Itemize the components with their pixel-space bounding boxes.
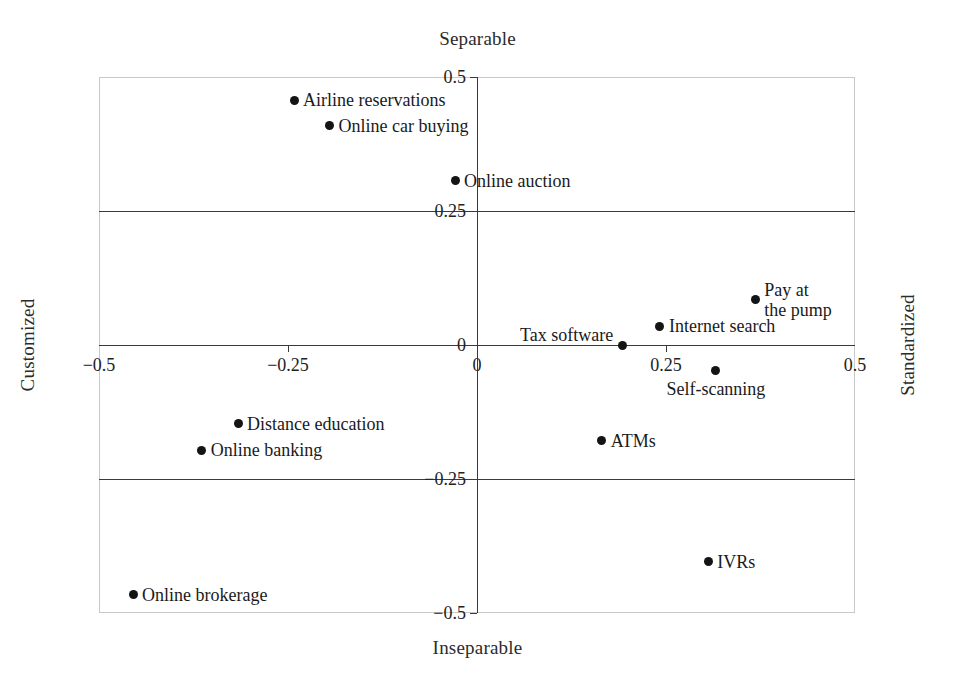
data-point [618, 341, 627, 350]
data-point [197, 446, 206, 455]
data-point-label: Online brokerage [142, 585, 267, 605]
data-point-label: Online auction [464, 171, 570, 191]
y-tick [470, 345, 477, 346]
data-point-label: Online car buying [339, 116, 469, 136]
scatter-plot: Separable Inseparable Customized Standar… [0, 0, 955, 691]
x-tick-label: −0.25 [267, 355, 309, 376]
y-tick [470, 211, 477, 212]
data-point-label: Airline reservations [303, 90, 445, 110]
y-tick-label: 0.5 [0, 67, 466, 88]
y-tick [470, 479, 477, 480]
x-tick-label: 0.25 [650, 355, 682, 376]
right-axis-title: Standardized [897, 294, 919, 396]
data-point [129, 590, 138, 599]
data-point-label: Tax software [520, 325, 613, 345]
data-point [234, 419, 243, 428]
data-point-label: Online banking [211, 440, 322, 460]
y-tick-label: 0.25 [0, 201, 466, 222]
y-tick-label: 0 [0, 335, 466, 356]
data-point [290, 96, 299, 105]
x-tick-label: −0.5 [83, 355, 116, 376]
data-point-label: Pay at the pump [764, 280, 832, 320]
y-tick [470, 77, 477, 78]
x-tick-label: 0 [473, 355, 482, 376]
data-point-label: Internet search [669, 316, 775, 336]
x-tick [666, 345, 667, 352]
data-point-label: IVRs [717, 551, 755, 571]
data-point-label: Distance education [247, 414, 384, 434]
y-tick-label: −0.5 [0, 603, 466, 624]
y-tick [470, 613, 477, 614]
data-point-label: Self-scanning [666, 379, 765, 399]
top-axis-title: Separable [0, 28, 955, 50]
data-point [704, 557, 713, 566]
x-tick [477, 345, 478, 352]
x-tick-label: 0.5 [844, 355, 867, 376]
y-tick-label: −0.25 [0, 469, 466, 490]
bottom-axis-title: Inseparable [0, 637, 955, 659]
data-point-label: ATMs [611, 431, 656, 451]
